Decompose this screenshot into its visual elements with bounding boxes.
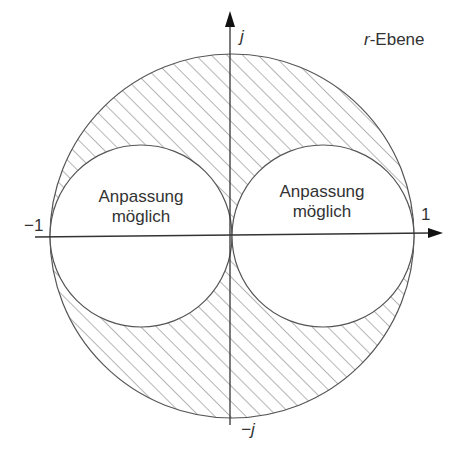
plane-title: r-Ebene — [364, 30, 425, 49]
real-positive-label: 1 — [421, 205, 430, 224]
right-region-label-line1: Anpassung — [279, 182, 364, 201]
real-axis-arrow-icon — [428, 228, 443, 238]
right-region-label-line2: möglich — [293, 202, 352, 221]
right-inner-circle — [232, 145, 414, 327]
r-plane-diagram: r-Ebene j −j −1 1 Anpassung möglich Anpa… — [0, 0, 464, 452]
real-negative-label: −1 — [24, 216, 43, 235]
imag-negative-label: −j — [241, 420, 256, 439]
left-region-label-line2: möglich — [112, 207, 171, 226]
imag-axis-arrow-icon — [225, 11, 235, 27]
imag-positive-label: j — [238, 27, 245, 46]
left-region-label-line1: Anpassung — [98, 187, 183, 206]
